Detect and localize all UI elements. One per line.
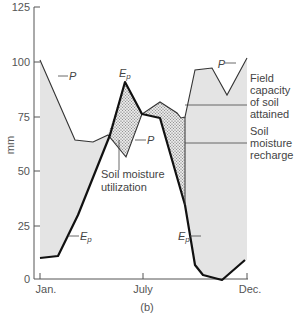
p-label-2: P	[147, 134, 155, 146]
field-capacity-label-line3: of soil	[250, 96, 279, 108]
utilization-label-line1: Soil moisture	[101, 168, 165, 180]
x-tick-july: July	[133, 283, 153, 295]
field-capacity-label-line2: capacity	[250, 84, 291, 96]
y-tick-75: 75	[18, 111, 30, 123]
figure-caption: (b)	[140, 301, 153, 313]
surplus-region-right	[185, 58, 247, 280]
field-capacity-label-line4: attained	[250, 108, 289, 120]
y-tick-125: 125	[12, 1, 30, 13]
y-ticks	[34, 7, 40, 226]
y-axis-label: mm	[4, 136, 16, 154]
y-tick-100: 100	[12, 56, 30, 68]
y-tick-25: 25	[18, 220, 30, 232]
y-tick-50: 50	[18, 165, 30, 177]
field-capacity-label-line1: Field	[250, 72, 274, 84]
p-label-1: P	[69, 70, 77, 82]
y-tick-0: 0	[24, 273, 30, 285]
p-label-3: P	[218, 58, 226, 70]
recharge-label-line3: recharge	[250, 149, 293, 161]
ep-label-left: Ep	[80, 230, 92, 244]
recharge-label-line2: moisture	[250, 137, 292, 149]
recharge-label-line1: Soil	[250, 125, 268, 137]
x-tick-dec: Dec.	[239, 283, 262, 295]
water-balance-chart: 125 100 75 50 25 0 mm Jan. July Dec. (b)…	[0, 0, 298, 318]
x-tick-jan: Jan.	[36, 283, 57, 295]
utilization-label-line2: utilization	[101, 181, 147, 193]
ep-label-peak: Ep	[119, 67, 131, 81]
